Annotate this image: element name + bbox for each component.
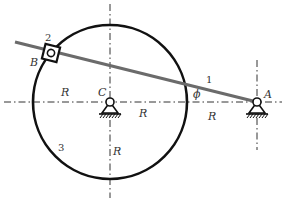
label-point-a: A <box>263 88 272 101</box>
label-radius-down: R <box>112 145 121 158</box>
label-link-1: 1 <box>206 74 212 85</box>
label-angle-phi: ϕ <box>193 88 201 101</box>
pivot-support-c <box>99 98 121 118</box>
label-radius-right: R <box>207 110 216 123</box>
label-radius-center-right: R <box>138 107 147 120</box>
label-link-3: 3 <box>58 142 64 153</box>
label-radius-left: R <box>60 86 69 99</box>
label-link-2: 2 <box>45 32 51 43</box>
label-point-b: B <box>29 56 38 69</box>
slider-block-link-2 <box>42 44 60 62</box>
mechanism-diagram: B 2 C A 1 3 ϕ R R R R <box>0 0 286 202</box>
label-point-c: C <box>98 86 107 99</box>
